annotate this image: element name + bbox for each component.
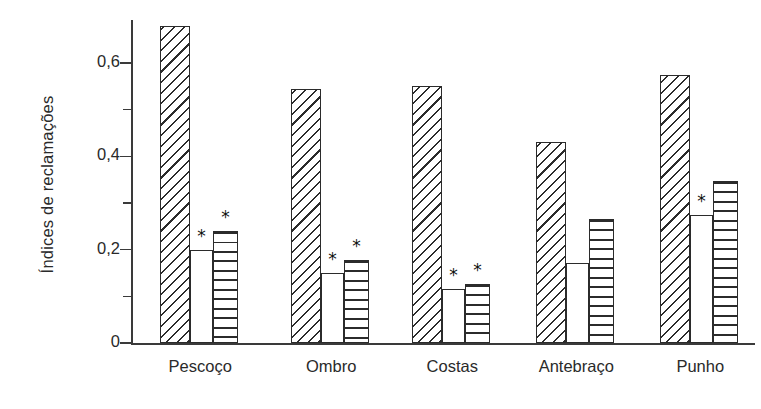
bar xyxy=(412,86,442,343)
y-tick-major xyxy=(120,62,131,64)
y-tick-label-text: 0 xyxy=(76,332,120,351)
bar-fill-horizontal-stripe xyxy=(714,182,737,342)
bar xyxy=(213,231,238,343)
bar xyxy=(536,142,566,343)
significance-marker: * xyxy=(221,209,230,226)
bar xyxy=(713,181,738,343)
bar-fill-diagonal-hatch xyxy=(413,87,441,342)
x-axis-label: Ombro xyxy=(306,357,356,376)
bar-fill-diagonal-hatch xyxy=(537,143,565,342)
y-tick-label-text: 0,2 xyxy=(76,239,120,258)
bar-fill-diagonal-hatch xyxy=(161,27,189,342)
y-tick-minor xyxy=(123,109,131,111)
bar xyxy=(291,89,321,343)
bar-fill-horizontal-stripe xyxy=(214,232,237,342)
bar xyxy=(690,215,713,343)
significance-marker: * xyxy=(352,238,361,255)
bar-fill-plain xyxy=(567,264,588,342)
y-tick-label-text: 0,4 xyxy=(76,145,120,164)
bar-fill-plain xyxy=(443,290,464,342)
bar-fill-plain xyxy=(191,251,212,342)
y-tick-major xyxy=(120,249,131,251)
bar xyxy=(566,263,589,343)
bar xyxy=(660,75,690,343)
bar-fill-diagonal-hatch xyxy=(292,90,320,342)
significance-marker: * xyxy=(449,267,458,284)
bar xyxy=(321,273,344,343)
y-axis-line xyxy=(131,20,133,345)
bar-fill-horizontal-stripe xyxy=(345,261,368,342)
bar-fill-plain xyxy=(322,274,343,342)
bar-fill-diagonal-hatch xyxy=(661,76,689,342)
y-tick-major xyxy=(120,156,131,158)
bar xyxy=(190,250,213,343)
y-tick-minor xyxy=(123,202,131,204)
x-axis-line xyxy=(131,343,755,345)
significance-marker: * xyxy=(197,228,206,245)
significance-marker: * xyxy=(473,262,482,279)
bar xyxy=(465,284,490,343)
y-tick-major xyxy=(120,342,131,344)
bar-chart: Índices de reclamações 00,20,40,6 ******… xyxy=(0,0,761,409)
bar xyxy=(442,289,465,343)
x-axis-label: Costas xyxy=(427,357,478,376)
x-axis-label: Antebraço xyxy=(539,357,614,376)
bar-fill-horizontal-stripe xyxy=(590,220,613,342)
significance-marker: * xyxy=(697,193,706,210)
bar xyxy=(589,219,614,343)
bar-fill-plain xyxy=(691,216,712,342)
bar xyxy=(160,26,190,343)
x-axis-label: Punho xyxy=(676,357,724,376)
y-tick-label-text: 0,6 xyxy=(76,52,120,71)
x-axis-label: Pescoço xyxy=(169,357,232,376)
y-axis-title: Índices de reclamações xyxy=(38,50,57,320)
significance-marker: * xyxy=(328,251,337,268)
bar xyxy=(344,260,369,343)
y-tick-minor xyxy=(123,296,131,298)
bar-fill-horizontal-stripe xyxy=(466,285,489,342)
